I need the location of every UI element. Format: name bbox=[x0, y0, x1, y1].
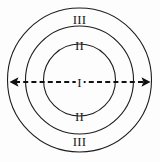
zone-label-middle-bottom: II bbox=[75, 110, 84, 123]
concentric-zones-diagram: III II I II III bbox=[0, 0, 160, 162]
zone-label-middle-top: II bbox=[75, 39, 84, 52]
zone-label-outer-top: III bbox=[73, 13, 87, 26]
zone-label-outer-bottom: III bbox=[73, 135, 87, 148]
zone-label-core: I bbox=[75, 76, 84, 89]
